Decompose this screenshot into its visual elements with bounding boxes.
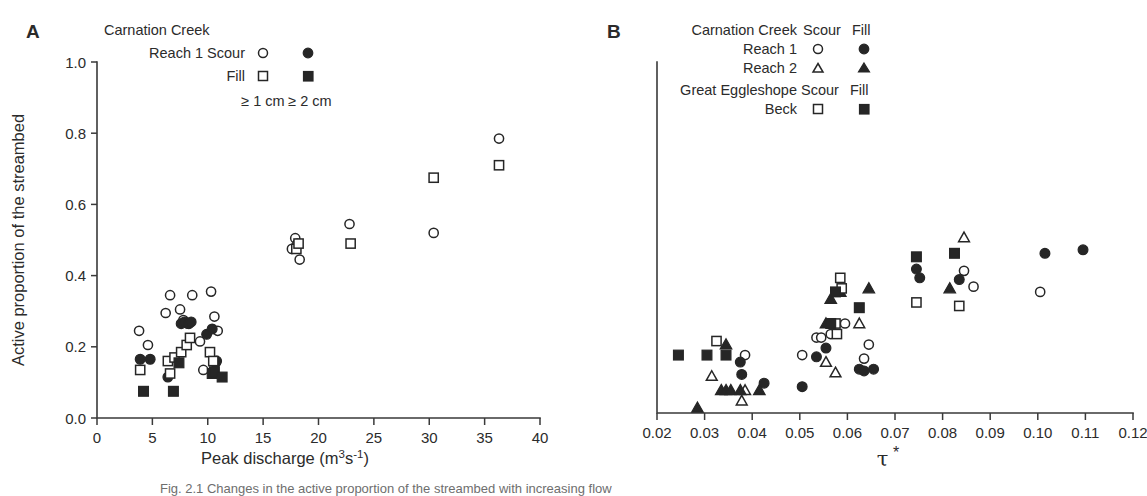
data-point-open-circle — [175, 305, 184, 314]
data-point-filled-square — [674, 350, 684, 360]
panel-b-x-tick-label: 0.11 — [1071, 424, 1099, 441]
legend-b-group2-col1: Scour — [801, 82, 839, 98]
data-point-open-circle — [206, 287, 215, 296]
panel-b-tick-labels: 0.020.030.040.050.060.070.080.090.100.11… — [642, 424, 1147, 441]
data-point-filled-square — [217, 372, 227, 382]
data-point-filled-circle — [135, 354, 145, 364]
panel-a-y-tick-label: 0.0 — [65, 410, 86, 427]
series-open-square — [136, 161, 504, 378]
data-point-open-circle — [1036, 287, 1045, 296]
series-open-square — [712, 273, 964, 345]
legend-a-row-0-open-circle-icon — [259, 49, 268, 58]
data-point-open-square — [912, 298, 921, 307]
data-point-open-circle — [165, 291, 174, 300]
legend-b-group2-title: Great Eggleshope — [680, 82, 797, 98]
panel-a-x-axis-title: Peak discharge (m3s-1) — [201, 448, 369, 467]
data-point-open-circle — [840, 319, 849, 328]
data-point-filled-circle — [869, 364, 879, 374]
data-point-open-circle — [429, 228, 438, 237]
panel-b-x-tick-label: 0.12 — [1118, 424, 1147, 441]
panel-b-legend: Carnation Creek Scour Fill Reach 1 Reach… — [680, 22, 870, 117]
panel-a-x-tick-label: 40 — [532, 429, 549, 446]
data-point-filled-square — [950, 248, 960, 258]
data-point-open-circle — [143, 340, 152, 349]
data-point-filled-circle — [859, 366, 869, 376]
panel-a-x-tick-label: 35 — [476, 429, 493, 446]
legend-a-row-1-filled-square-icon — [304, 72, 314, 82]
data-point-filled-circle — [797, 382, 807, 392]
data-point-open-square — [185, 333, 194, 342]
data-point-open-circle — [859, 354, 868, 363]
legend-b-row-0-label: Reach 1 — [743, 41, 797, 57]
data-point-open-circle — [345, 219, 354, 228]
legend-b-row-1-label: Reach 2 — [743, 60, 797, 76]
panel-a-axes — [91, 62, 540, 425]
data-point-filled-triangle — [863, 283, 875, 293]
panel-b-letter: B — [607, 21, 621, 42]
data-point-filled-circle — [954, 275, 964, 285]
data-point-open-square — [136, 365, 145, 374]
panel-b-x-tick-label: 0.03 — [690, 424, 719, 441]
data-point-open-circle — [817, 333, 826, 342]
data-point-filled-triangle — [944, 283, 956, 293]
panel-a-y-tick-label: 0.8 — [65, 125, 86, 142]
panel-a-x-tick-label: 10 — [199, 429, 216, 446]
data-point-filled-circle — [812, 352, 822, 362]
legend-a-row-0-label: Reach 1 Scour — [149, 45, 245, 61]
legend-b-row-0-filled-circle-icon — [859, 44, 869, 54]
data-point-filled-square — [831, 287, 841, 297]
panel-a-x-tick-label: 5 — [148, 429, 156, 446]
panel-a-y-tick-label: 0.6 — [65, 196, 86, 213]
legend-a-title: Carnation Creek — [104, 22, 210, 38]
figure-container: A 0.00.20.40.60.81.00510152025303540 Pea… — [0, 0, 1147, 496]
legend-b-row-1-open-triangle-icon — [813, 64, 823, 73]
data-point-open-circle — [494, 134, 503, 143]
legend-a-row-1-open-square-icon — [259, 72, 268, 81]
legend-a-col2-label: ≥ 2 cm — [288, 93, 331, 109]
data-point-open-square — [836, 273, 845, 282]
data-point-filled-circle — [1078, 245, 1088, 255]
legend-b-row-2-label: Beck — [765, 101, 798, 117]
figure-caption: Fig. 2.1 Changes in the active proportio… — [160, 481, 612, 496]
data-point-open-square — [494, 161, 503, 170]
panel-a-y-tick-label: 1.0 — [65, 54, 86, 71]
data-point-open-circle — [161, 308, 170, 317]
data-point-filled-circle — [737, 369, 747, 379]
data-point-open-circle — [134, 326, 143, 335]
data-point-open-circle — [210, 312, 219, 321]
data-point-filled-triangle — [692, 402, 704, 412]
panel-b-x-axis-title: τ * — [877, 444, 899, 471]
legend-a-col1-label: ≥ 1 cm — [241, 93, 284, 109]
data-point-open-circle — [199, 365, 208, 374]
legend-b-group1-title: Carnation Creek — [691, 22, 797, 38]
data-point-filled-square — [912, 252, 922, 262]
data-point-open-triangle — [706, 371, 717, 381]
data-point-filled-circle — [1040, 248, 1050, 258]
panel-b-x-tick-label: 0.06 — [833, 424, 862, 441]
data-point-open-square — [165, 369, 174, 378]
data-point-filled-circle — [821, 343, 831, 353]
panel-b-x-tick-label: 0.08 — [928, 424, 957, 441]
panel-b-x-tick-label: 0.05 — [785, 424, 814, 441]
data-point-filled-square — [702, 350, 712, 360]
data-point-open-circle — [295, 255, 304, 264]
legend-b-group1-col1: Scour — [803, 22, 841, 38]
data-point-open-circle — [959, 266, 968, 275]
data-point-open-circle — [798, 350, 807, 359]
data-point-filled-circle — [186, 317, 196, 327]
data-point-open-square — [832, 329, 841, 338]
scatter-figure: A 0.00.20.40.60.81.00510152025303540 Pea… — [0, 0, 1147, 496]
panel-b-x-tick-label: 0.07 — [880, 424, 909, 441]
data-point-filled-square — [721, 350, 731, 360]
data-point-filled-square — [139, 386, 149, 396]
data-point-open-triangle — [854, 318, 865, 328]
data-point-open-triangle — [959, 232, 970, 242]
data-point-open-square — [712, 336, 721, 345]
legend-b-row-2-open-square-icon — [814, 105, 823, 114]
series-filled-circle — [735, 245, 1088, 392]
panel-a-tick-labels: 0.00.20.40.60.81.00510152025303540 — [65, 54, 548, 447]
data-point-filled-circle — [735, 357, 745, 367]
panel-b-x-tick-label: 0.02 — [642, 424, 671, 441]
panel-a-x-tick-label: 15 — [255, 429, 272, 446]
data-point-open-triangle — [736, 395, 747, 405]
